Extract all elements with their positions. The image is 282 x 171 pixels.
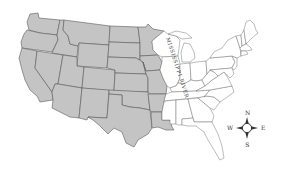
- state-north-dakota: [109, 26, 140, 43]
- compass-rose: N S E W: [227, 109, 265, 148]
- state-wyoming: [77, 43, 109, 68]
- state-new-york: [210, 36, 241, 58]
- state-michigan-lower: [181, 43, 195, 62]
- state-maine: [244, 20, 258, 44]
- compass-west-label: W: [227, 124, 234, 131]
- state-arizona: [52, 84, 82, 118]
- state-florida: [182, 118, 224, 160]
- state-kansas: [114, 73, 148, 92]
- compass-icon: [236, 117, 258, 139]
- compass-east-label: E: [261, 124, 265, 131]
- state-colorado: [82, 67, 115, 91]
- us-map: MISSISSIPPI RIVER N S E W: [0, 0, 282, 171]
- compass-south-label: S: [245, 141, 249, 148]
- west-states: [19, 13, 174, 147]
- state-connecticut: [241, 51, 248, 56]
- compass-north-label: N: [245, 109, 250, 116]
- state-new-mexico: [79, 88, 109, 120]
- state-montana: [63, 20, 110, 46]
